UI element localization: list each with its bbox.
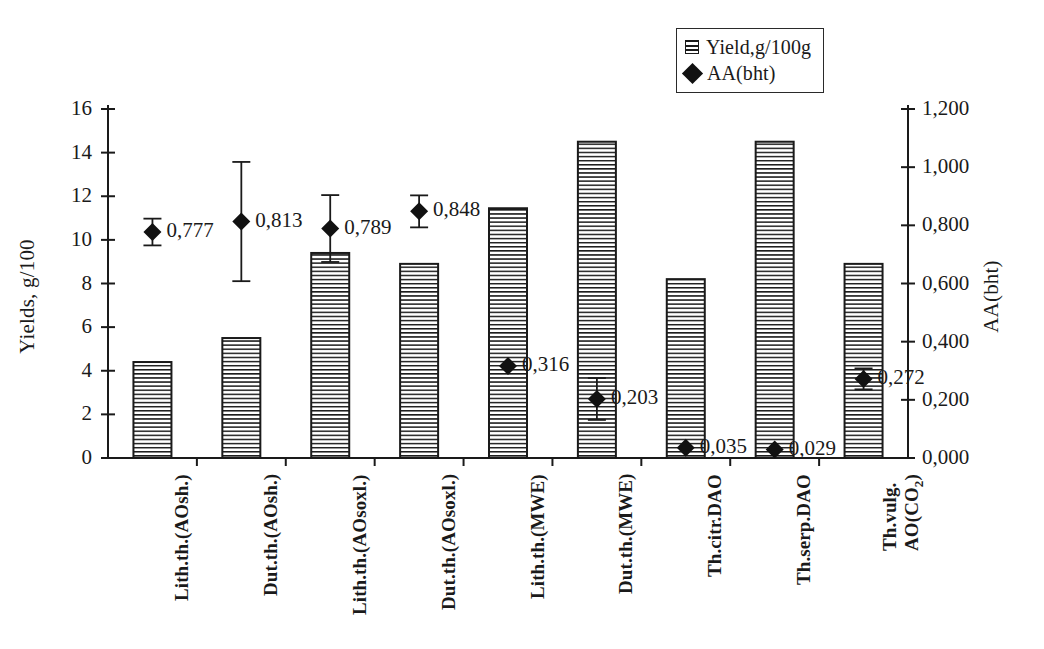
bar-2 [311,253,349,458]
x-category-label-5: Dut.th.(MWE) [615,474,636,594]
y-tick-label-right-3: 0,600 [922,273,1002,294]
y-tick-label-left-0: 0 [32,447,92,468]
x-category-label-3: Dut.th.(AOsoxl.) [438,474,459,610]
y-tick-label-left-8: 16 [32,98,92,119]
bar-7 [756,142,794,458]
data-point-diamond-2 [321,220,339,238]
bar-6 [667,279,705,458]
chart-container: Yield,g/100g AA(bht) Yields, g/100 AA(bh… [0,0,1044,649]
data-point-diamond-1 [232,213,250,231]
y-tick-label-left-4: 8 [32,273,92,294]
data-label-5: 0,203 [611,387,658,408]
data-label-6: 0,035 [700,436,747,457]
x-category-label-6: Th.citr.DAO [704,474,725,577]
bar-series [133,142,882,458]
y-tick-label-right-1: 0,200 [922,389,1002,410]
bar-3 [400,264,438,458]
y-tick-label-left-5: 10 [32,229,92,250]
y-tick-label-left-1: 2 [32,403,92,424]
x-category-label-0: Lith.th.(AOsh.) [171,474,192,601]
x-category-label-1: Dut.th.(AOsh.) [260,474,281,596]
bar-0 [133,362,171,458]
plot-area [0,0,1044,649]
data-label-8: 0,272 [878,367,925,388]
x-category-label-7: Th.serp.DAO [793,474,814,585]
data-label-4: 0,316 [522,354,569,375]
x-category-label-8: Th.vulg.AO(CO2) [879,474,930,551]
y-tick-label-left-3: 6 [32,316,92,337]
data-label-7: 0,029 [789,438,836,459]
bar-1 [222,338,260,458]
x-category-label-2: Lith.th.(AOsoxl.) [349,474,370,615]
data-label-2: 0,789 [344,217,391,238]
data-point-diamond-3 [410,202,428,220]
data-point-diamond-0 [143,223,161,241]
y-tick-label-left-6: 12 [32,185,92,206]
bar-4 [489,208,527,458]
data-label-1: 0,813 [255,210,302,231]
y-tick-label-right-4: 0,800 [922,214,1002,235]
data-label-3: 0,848 [433,199,480,220]
data-label-0: 0,777 [166,220,213,241]
y-tick-label-right-2: 0,400 [922,331,1002,352]
y-tick-label-right-5: 1,000 [922,156,1002,177]
y-tick-label-left-7: 14 [32,142,92,163]
y-tick-label-right-6: 1,200 [922,98,1002,119]
bar-8 [845,264,883,458]
y-tick-label-left-2: 4 [32,360,92,381]
x-category-label-4: Lith.th.(MWE) [527,474,548,599]
y-tick-label-right-0: 0,000 [922,447,1002,468]
